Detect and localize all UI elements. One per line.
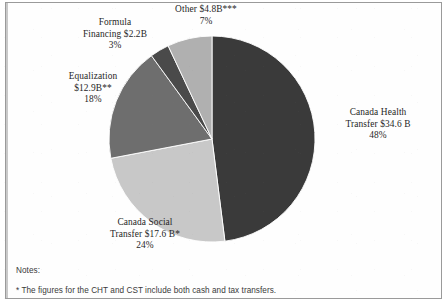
pie-slice-canada-health-transfer bbox=[212, 36, 315, 241]
pie-label-health-line1: Canada Health bbox=[316, 107, 440, 119]
pie-label-canada-social-transfer: Canada Social Transfer $17.6 B* 24% bbox=[72, 217, 218, 252]
figure-page: Other $4.8B*** 7% Formula Financing $2.2… bbox=[0, 0, 447, 302]
pie-label-health-percent: 48% bbox=[316, 130, 440, 142]
pie-label-equalization-line1: Equalization bbox=[27, 71, 159, 83]
pie-label-health-line2: Transfer $34.6 B bbox=[316, 119, 440, 131]
pie-label-social-line2: Transfer $17.6 B* bbox=[72, 229, 218, 241]
pie-label-social-line1: Canada Social bbox=[72, 217, 218, 229]
pie-label-formula-line1: Formula bbox=[47, 17, 183, 29]
pie-slice-group bbox=[109, 36, 315, 242]
pie-label-equalization-line2: $12.9B** bbox=[27, 83, 159, 95]
pie-label-formula-line2: Financing $2.2B bbox=[47, 29, 183, 41]
pie-label-social-percent: 24% bbox=[72, 240, 218, 252]
pie-label-equalization: Equalization $12.9B** 18% bbox=[27, 71, 159, 106]
pie-label-other-name: Other $4.8B*** bbox=[131, 4, 281, 16]
notes-heading: Notes: bbox=[16, 265, 40, 276]
pie-label-canada-health-transfer: Canada Health Transfer $34.6 B 48% bbox=[316, 107, 440, 142]
note-item-1: * The figures for the CHT and CST includ… bbox=[16, 285, 276, 296]
pie-label-formula-percent: 3% bbox=[47, 40, 183, 52]
pie-label-formula-financing: Formula Financing $2.2B 3% bbox=[47, 17, 183, 52]
pie-label-equalization-percent: 18% bbox=[27, 94, 159, 106]
